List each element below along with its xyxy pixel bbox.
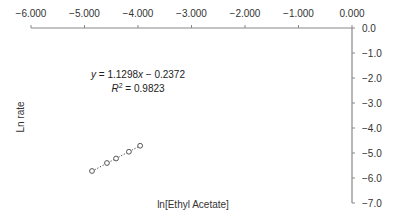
x-axis-title: ln[Ethyl Acetate] [157, 199, 229, 210]
y-tick-label: −3.0 [362, 98, 382, 109]
data-point-marker [114, 156, 119, 161]
x-tick-label: −2.000 [230, 8, 261, 19]
x-tick-label: −4.000 [123, 8, 154, 19]
data-point-marker [127, 149, 132, 154]
regression-equation: y = 1.1298x − 0.2372 [90, 69, 185, 80]
data-points [90, 143, 143, 173]
x-tick-label: −5.000 [69, 8, 100, 19]
y-tick-label: −6.0 [362, 173, 382, 184]
x-tick-label: −1.000 [283, 8, 314, 19]
x-tick-label: −6.000 [16, 8, 47, 19]
r-squared-label: R2 = 0.9823 [111, 82, 165, 94]
data-point-marker [90, 169, 95, 174]
y-axis: 0.0−1.0−2.0−3.0−4.0−5.0−6.0−7.0 [352, 23, 382, 209]
y-tick-label: −5.0 [362, 148, 382, 159]
y-tick-label: −2.0 [362, 73, 382, 84]
data-point-marker [138, 143, 143, 148]
y-tick-label: −4.0 [362, 123, 382, 134]
x-tick-label: −3.000 [176, 8, 207, 19]
chart: −6.000−5.000−4.000−3.000−2.000−1.0000.00… [0, 0, 400, 221]
y-tick-label: −7.0 [362, 198, 382, 209]
y-tick-label: 0.0 [362, 23, 376, 34]
x-axis: −6.000−5.000−4.000−3.000−2.000−1.0000.00… [16, 8, 365, 28]
x-tick-label: 0.000 [339, 8, 364, 19]
y-tick-label: −1.0 [362, 48, 382, 59]
y-axis-title: Ln rate [15, 101, 26, 133]
data-point-marker [105, 161, 110, 166]
